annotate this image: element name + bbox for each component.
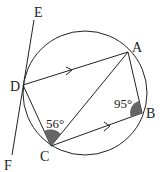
angle-label-b: 95°: [114, 96, 132, 111]
label-c: C: [40, 149, 49, 164]
segment-da: [23, 52, 128, 85]
label-e: E: [34, 5, 43, 20]
label-b: B: [146, 106, 155, 121]
label-d: D: [10, 79, 20, 94]
label-a: A: [132, 40, 143, 55]
geometry-diagram: E F A B C D 56° 95°: [0, 0, 161, 172]
circle: [23, 31, 147, 155]
label-f: F: [4, 158, 12, 172]
angle-label-c: 56°: [46, 116, 64, 131]
